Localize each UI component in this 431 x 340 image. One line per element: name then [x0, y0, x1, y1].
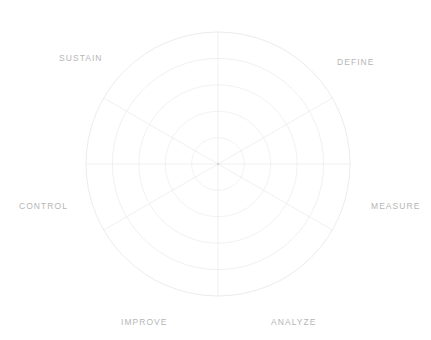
- spoke-analyze: [218, 164, 332, 230]
- radar-grid-svg: [0, 0, 431, 340]
- axis-label-control: CONTROL: [19, 202, 68, 211]
- radar-chart-container: DEFINE MEASURE ANALYZE IMPROVE CONTROL S…: [0, 0, 431, 340]
- axis-label-define: DEFINE: [337, 58, 374, 67]
- axis-label-analyze: ANALYZE: [271, 318, 316, 327]
- center-point: [217, 163, 219, 165]
- axis-label-improve: IMPROVE: [121, 318, 168, 327]
- axis-label-measure: MEASURE: [371, 202, 420, 211]
- spoke-define: [218, 98, 332, 164]
- axis-label-sustain: SUSTAIN: [59, 54, 103, 63]
- spoke-sustain: [104, 98, 218, 164]
- spoke-improve: [104, 164, 218, 230]
